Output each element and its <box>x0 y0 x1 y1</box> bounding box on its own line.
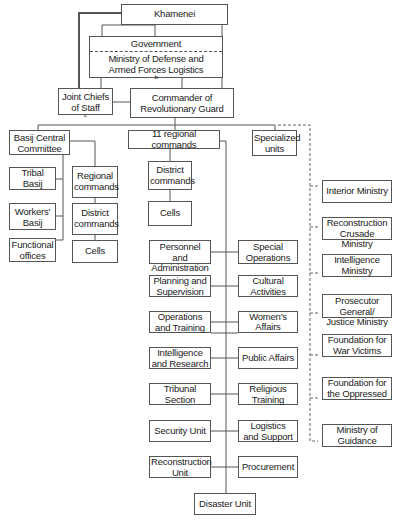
foundation-oppressed-box: Foundation forthe Oppressed <box>322 377 392 400</box>
dashed-separator <box>90 51 222 52</box>
personnel-administration-box: Personnel andAdministration <box>149 240 211 264</box>
cultural-activities-box: CulturalActivities <box>238 275 298 297</box>
basij-regional-commands-box: Regional commands <box>72 166 118 198</box>
regional-cells-box: Cells <box>148 201 192 226</box>
reconstruction-crusade-ministry-box: ReconstructionCrusade Ministry <box>322 217 392 240</box>
tribunal-section-box: TribunalSection <box>149 383 211 405</box>
specialized-units-box: Specialized units <box>252 130 297 156</box>
functional-offices-box: Functional offices <box>9 238 56 262</box>
khamenei-box: Khamenei <box>121 4 228 25</box>
basij-cells-box: Cells <box>72 240 118 263</box>
intelligence-research-box: Intelligenceand Research <box>149 347 211 369</box>
tribal-basij-box: Tribal Basij <box>9 167 56 190</box>
modafl-label: Ministry of Defense and Armed Forces Log… <box>90 51 222 86</box>
foundation-war-victims-box: Foundation forWar Victims <box>322 334 392 357</box>
interior-ministry-box: Interior Ministry <box>322 180 392 203</box>
procurement-box: Procurement <box>238 456 298 478</box>
commander-box: Commander of Revolutionary Guard <box>130 88 234 118</box>
basij-district-commands-box: District commands <box>72 203 118 235</box>
security-unit-box: Security Unit <box>149 420 211 442</box>
joint-chiefs-box: Joint Chiefs of Staffc <box>58 88 113 115</box>
planning-supervision-box: Planning andSupervision <box>149 275 211 297</box>
workers-basij-box: Workers' Basij <box>9 203 56 230</box>
government-label: Government <box>90 37 222 51</box>
disaster-unit-box: Disaster Unit <box>194 493 256 515</box>
public-affairs-box: Public Affairs <box>238 347 298 369</box>
operations-training-box: Operationsand Training <box>149 311 211 333</box>
intelligence-ministry-box: IntelligenceMinistry <box>322 254 392 277</box>
regional-commands-11-box: 11 regional commands <box>128 130 220 149</box>
prosecutor-justice-ministry-box: Prosecutor General/Justice Ministry <box>322 294 392 318</box>
basij-central-committee-box: Basij Central Committee <box>9 130 70 155</box>
religious-training-box: ReligiousTraining <box>238 383 298 405</box>
reconstruction-unit-box: ReconstructionUnit <box>149 456 211 478</box>
regional-district-commands-box: District commands <box>148 161 192 190</box>
special-operations-box: SpecialOperations <box>238 240 298 264</box>
government-box: Government Ministry of Defense and Armed… <box>89 36 223 78</box>
logistics-support-box: Logisticsand Support <box>238 420 298 442</box>
womens-affairs-box: Women's Affairs <box>238 311 298 333</box>
ministry-guidance-box: Ministry ofGuidance <box>322 424 392 447</box>
